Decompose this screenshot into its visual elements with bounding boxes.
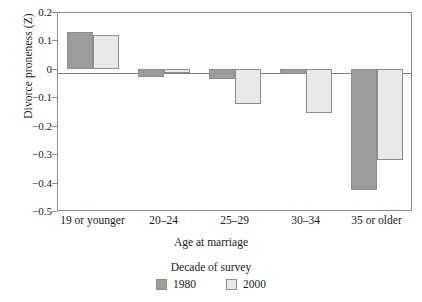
legend-title: Decade of survey <box>0 261 422 273</box>
bar-1980-1 <box>67 32 93 69</box>
bar-1980-4 <box>280 69 306 74</box>
bar-2000-2 <box>164 69 190 73</box>
legend-swatch-icon <box>156 279 167 290</box>
y-axis-tick-mark <box>52 211 57 212</box>
legend: 19802000 <box>0 278 422 290</box>
legend-label: 2000 <box>243 278 266 290</box>
legend-label: 1980 <box>173 278 196 290</box>
y-axis-tick-label: −0.3 <box>0 149 52 159</box>
bar-2000-3 <box>235 69 261 105</box>
bar-2000-4 <box>306 69 332 113</box>
y-axis-tick-label: 0.2 <box>0 7 52 17</box>
y-axis-tick-label: 0.1 <box>0 35 52 45</box>
y-axis-tick-label: −0.2 <box>0 121 52 131</box>
x-axis-title: Age at marriage <box>0 236 422 248</box>
bar-1980-3 <box>209 69 235 79</box>
divorce-proneness-bar-chart: Divorce proneness (Z) 0.20.10−0.1−0.2−0.… <box>0 0 422 302</box>
legend-item-2000: 2000 <box>226 278 266 290</box>
bar-2000-1 <box>93 35 119 69</box>
x-axis-tick-label: 35 or older <box>327 214 422 226</box>
bar-2000-5 <box>377 69 403 160</box>
legend-swatch-icon <box>226 279 237 290</box>
legend-item-1980: 1980 <box>156 278 196 290</box>
bar-1980-5 <box>351 69 377 190</box>
bar-1980-2 <box>138 69 164 78</box>
y-axis-tick-label: 0 <box>0 64 52 74</box>
y-axis-tick-label: −0.1 <box>0 92 52 102</box>
y-axis-tick-label: −0.4 <box>0 178 52 188</box>
